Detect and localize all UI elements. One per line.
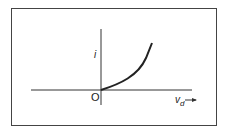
diagram-canvas xyxy=(0,0,230,133)
x-axis-label: vd xyxy=(175,95,184,108)
x-arrow-icon xyxy=(192,98,197,102)
characteristic-curve xyxy=(101,43,152,90)
y-axis-label: i xyxy=(94,50,96,60)
origin-label: O xyxy=(91,92,100,103)
x-axis-label-sub: d xyxy=(180,99,184,108)
